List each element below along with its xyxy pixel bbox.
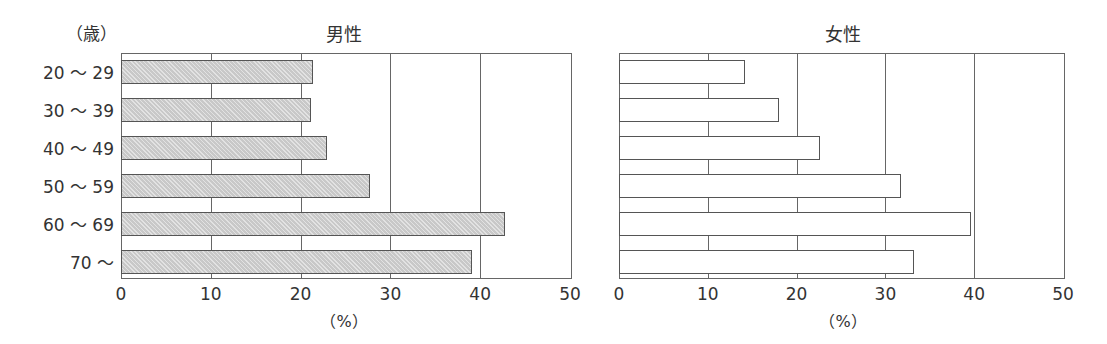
age-label: 70 ～ bbox=[70, 249, 114, 274]
gridline bbox=[390, 54, 391, 278]
x-tick-label: 10 bbox=[697, 284, 719, 304]
x-tick-label: 50 bbox=[559, 284, 581, 304]
female-x-axis-unit: （%） bbox=[819, 308, 866, 332]
gridline bbox=[708, 54, 709, 278]
bar-30～39 bbox=[619, 98, 779, 122]
bar-50～59 bbox=[619, 174, 901, 198]
gridline bbox=[211, 54, 212, 278]
age-label: 30 ～ 39 bbox=[43, 97, 114, 122]
age-label: 40 ～ 49 bbox=[43, 135, 114, 160]
bar-20～29 bbox=[121, 60, 313, 84]
x-tick-label: 40 bbox=[963, 284, 985, 304]
age-label: 50 ～ 59 bbox=[43, 173, 114, 198]
bar-40～49 bbox=[619, 136, 820, 160]
gridline bbox=[797, 54, 798, 278]
x-tick-label: 0 bbox=[614, 284, 625, 304]
x-tick-label: 10 bbox=[200, 284, 222, 304]
x-tick-label: 30 bbox=[875, 284, 897, 304]
x-tick-label: 30 bbox=[380, 284, 402, 304]
male-x-axis-unit: （%） bbox=[320, 308, 367, 332]
female-chart-title: 女性 bbox=[825, 20, 861, 46]
x-tick-label: 40 bbox=[469, 284, 491, 304]
age-label: 20 ～ 29 bbox=[43, 59, 114, 84]
gridline bbox=[301, 54, 302, 278]
bar-70～ bbox=[619, 250, 914, 274]
gridline bbox=[885, 54, 886, 278]
x-tick-label: 0 bbox=[116, 284, 127, 304]
x-tick-label: 20 bbox=[786, 284, 808, 304]
x-tick-label: 20 bbox=[290, 284, 312, 304]
bar-60～69 bbox=[121, 212, 505, 236]
age-axis-unit: （歳） bbox=[66, 20, 117, 45]
female-chart-plot bbox=[619, 53, 1065, 279]
age-label: 60 ～ 69 bbox=[43, 211, 114, 236]
bar-70～ bbox=[121, 250, 472, 274]
x-tick-label: 50 bbox=[1052, 284, 1074, 304]
gridline bbox=[480, 54, 481, 278]
male-chart-title: 男性 bbox=[326, 20, 362, 46]
bar-20～29 bbox=[619, 60, 745, 84]
gridline bbox=[974, 54, 975, 278]
bar-30～39 bbox=[121, 98, 311, 122]
age-axis-labels: 20 ～ 29 30 ～ 39 40 ～ 49 50 ～ 59 60 ～ 69 … bbox=[0, 53, 114, 279]
bar-40～49 bbox=[121, 136, 327, 160]
bar-60～69 bbox=[619, 212, 971, 236]
bar-50～59 bbox=[121, 174, 370, 198]
male-chart-plot bbox=[121, 53, 572, 279]
